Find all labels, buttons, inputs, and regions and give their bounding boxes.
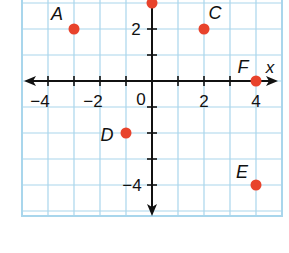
point-label-d: D xyxy=(101,125,114,145)
point-label-c: C xyxy=(209,3,223,23)
point-b xyxy=(147,0,158,9)
x-tick-label-neg4: −4 xyxy=(30,92,49,111)
point-label-e: E xyxy=(236,162,249,182)
point-d xyxy=(121,128,132,139)
point-e xyxy=(251,180,262,191)
point-f xyxy=(251,76,262,87)
x-axis-label: x xyxy=(265,58,275,77)
x-tick-label-4: 4 xyxy=(251,92,260,111)
x-tick-label-neg2: −2 xyxy=(83,92,102,111)
point-label-a: A xyxy=(50,4,63,24)
y-tick-label-neg4: −4 xyxy=(122,176,141,195)
coordinate-plane: −4 −2 0 2 4 2 −4 x A C D E F xyxy=(0,0,289,253)
origin-label: 0 xyxy=(136,90,145,109)
point-label-f: F xyxy=(238,57,250,77)
point-c xyxy=(199,24,210,35)
x-tick-label-2: 2 xyxy=(199,92,208,111)
y-tick-label-2: 2 xyxy=(131,20,140,39)
y-axis xyxy=(147,0,157,216)
point-a xyxy=(69,24,80,35)
